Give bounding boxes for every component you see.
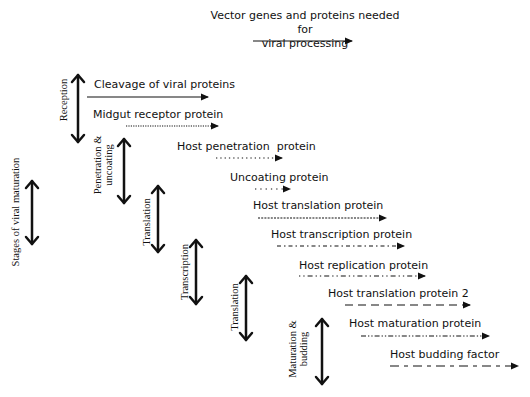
header-line1: Vector genes and proteins needed for (210, 9, 399, 36)
header-title: Vector genes and proteins needed for vir… (205, 9, 405, 51)
axis-label: Stages of viral maturation (10, 152, 21, 272)
label-host-translation: Host translation protein (253, 199, 383, 212)
stage-translation: Translation (141, 192, 152, 252)
label-midgut: Midgut receptor protein (93, 108, 223, 121)
label-host-budding: Host budding factor (390, 348, 499, 361)
header-line2: viral processing (262, 37, 349, 50)
label-uncoating: Uncoating protein (230, 171, 328, 184)
stage-penetration-line2: uncoating (103, 144, 114, 185)
label-cleavage: Cleavage of viral proteins (94, 78, 235, 91)
stage-translation-2: Translation (229, 277, 240, 337)
stage-reception: Reception (58, 70, 69, 130)
stage-maturation: Maturation & budding (287, 314, 309, 384)
label-host-maturation: Host maturation protein (349, 317, 481, 330)
stage-maturation-line2: budding (298, 332, 309, 366)
stage-transcription: Transcription (179, 239, 190, 305)
label-host-transcription: Host transcription protein (271, 228, 412, 241)
label-host-translation-2: Host translation protein 2 (328, 287, 469, 300)
label-penetration: Host penetration protein (177, 140, 316, 153)
stage-maturation-line1: Maturation & (287, 320, 298, 377)
stage-penetration-line1: Penetration & (92, 136, 103, 195)
stage-penetration: Penetration & uncoating (92, 130, 114, 200)
label-host-replication: Host replication protein (299, 259, 428, 272)
